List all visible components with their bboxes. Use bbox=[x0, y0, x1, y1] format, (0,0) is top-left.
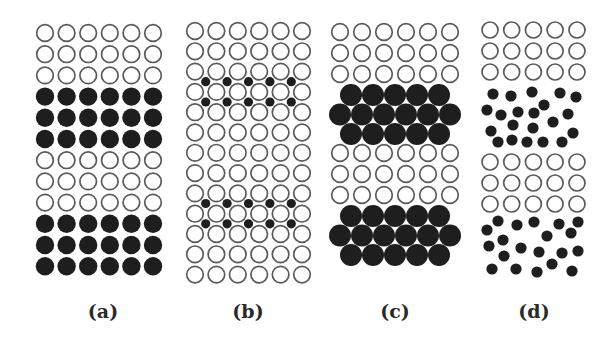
open-atom bbox=[547, 43, 563, 59]
open-atom bbox=[442, 66, 459, 83]
open-atom bbox=[294, 84, 311, 101]
open-atom bbox=[123, 46, 140, 63]
open-atom bbox=[504, 22, 520, 38]
open-atom bbox=[102, 194, 119, 211]
filled-atom bbox=[101, 130, 119, 148]
open-atom bbox=[251, 84, 268, 101]
open-atom bbox=[354, 166, 371, 183]
open-atom bbox=[187, 246, 204, 263]
open-atom bbox=[504, 175, 520, 191]
random-filled-atom bbox=[546, 258, 557, 269]
open-atom bbox=[187, 226, 204, 243]
interstitial-atom bbox=[201, 97, 210, 106]
open-atom bbox=[504, 43, 520, 59]
open-atom bbox=[58, 173, 75, 190]
filled-atom bbox=[101, 87, 119, 105]
panel-d-label: (d) bbox=[518, 300, 549, 322]
open-atom bbox=[354, 24, 371, 41]
filled-atom bbox=[144, 215, 162, 233]
open-atom bbox=[294, 165, 311, 182]
open-atom bbox=[102, 25, 119, 42]
filled-atom bbox=[122, 87, 140, 105]
filled-large-atom bbox=[384, 84, 406, 106]
open-atom bbox=[230, 104, 247, 121]
open-atom bbox=[102, 67, 119, 84]
open-atom bbox=[123, 67, 140, 84]
filled-large-atom bbox=[428, 84, 450, 106]
open-atom bbox=[208, 124, 225, 141]
open-atom bbox=[272, 63, 289, 80]
filled-atom bbox=[36, 130, 54, 148]
open-atom bbox=[569, 43, 585, 59]
interstitial-atom bbox=[287, 77, 296, 86]
open-atom bbox=[525, 64, 541, 80]
interstitial-atom bbox=[223, 199, 232, 208]
open-atom bbox=[187, 23, 204, 40]
open-atom bbox=[230, 84, 247, 101]
open-atom bbox=[230, 246, 247, 263]
open-atom bbox=[376, 145, 393, 162]
open-atom bbox=[294, 104, 311, 121]
random-filled-atom bbox=[495, 109, 506, 120]
open-atom bbox=[294, 145, 311, 162]
open-atom bbox=[294, 43, 311, 60]
open-atom bbox=[272, 124, 289, 141]
open-atom bbox=[398, 66, 415, 83]
random-filled-atom bbox=[521, 136, 532, 147]
open-atom bbox=[80, 46, 97, 63]
open-atom bbox=[145, 67, 162, 84]
open-atom bbox=[420, 66, 437, 83]
filled-large-atom bbox=[417, 104, 439, 126]
filled-atom bbox=[144, 87, 162, 105]
open-atom bbox=[251, 246, 268, 263]
open-atom bbox=[354, 145, 371, 162]
open-atom bbox=[294, 205, 311, 222]
open-atom bbox=[482, 22, 498, 38]
filled-large-atom bbox=[340, 205, 362, 227]
filled-large-atom bbox=[362, 244, 384, 266]
open-atom bbox=[294, 185, 311, 202]
filled-atom bbox=[144, 109, 162, 127]
interstitial-atom bbox=[244, 77, 253, 86]
filled-large-atom bbox=[428, 123, 450, 145]
open-atom bbox=[398, 45, 415, 62]
random-filled-atom bbox=[505, 90, 516, 101]
open-atom bbox=[294, 63, 311, 80]
open-atom bbox=[230, 266, 247, 283]
random-filled-atom bbox=[553, 218, 564, 229]
filled-atom bbox=[122, 109, 140, 127]
filled-large-atom bbox=[395, 225, 417, 247]
open-atom bbox=[569, 154, 585, 170]
filled-atom bbox=[101, 257, 119, 275]
filled-atom bbox=[79, 109, 97, 127]
interstitial-atom bbox=[244, 97, 253, 106]
open-atom bbox=[332, 45, 349, 62]
random-filled-atom bbox=[483, 240, 494, 251]
open-atom bbox=[37, 25, 54, 42]
open-atom bbox=[187, 104, 204, 121]
open-atom bbox=[272, 23, 289, 40]
lattice-figure: (a) (b) (c) (d) bbox=[0, 0, 616, 348]
open-atom bbox=[230, 124, 247, 141]
filled-large-atom bbox=[417, 225, 439, 247]
open-atom bbox=[208, 185, 225, 202]
random-filled-atom bbox=[572, 245, 583, 256]
interstitial-atom bbox=[201, 199, 210, 208]
open-atom bbox=[547, 154, 563, 170]
filled-large-atom bbox=[329, 225, 351, 247]
open-atom bbox=[145, 152, 162, 169]
interstitial-atom bbox=[244, 219, 253, 228]
open-atom bbox=[58, 67, 75, 84]
open-atom bbox=[187, 205, 204, 222]
filled-large-atom bbox=[362, 205, 384, 227]
open-atom bbox=[37, 46, 54, 63]
random-filled-atom bbox=[567, 127, 578, 138]
filled-atom bbox=[122, 257, 140, 275]
open-atom bbox=[208, 23, 225, 40]
open-atom bbox=[294, 124, 311, 141]
open-atom bbox=[398, 145, 415, 162]
open-atom bbox=[187, 145, 204, 162]
filled-large-atom bbox=[439, 104, 461, 126]
random-filled-atom bbox=[566, 265, 577, 276]
random-filled-atom bbox=[506, 134, 517, 145]
